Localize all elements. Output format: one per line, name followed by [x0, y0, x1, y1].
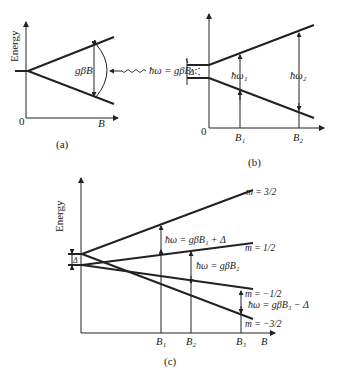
gap-label: gβB [75, 64, 93, 76]
panel-b: Δ ħω₁ ħω₂ 0 B₁ B₂ (b) [186, 14, 324, 169]
y-axis-label: Energy [8, 30, 20, 62]
lower-level [209, 78, 314, 118]
upper-level [28, 37, 114, 71]
zero-field-label: Δ [188, 67, 194, 77]
x-axis-label: B [98, 117, 105, 129]
energy-level-diagram: Energy 0 B gβB ħω = gβB (a) Δ ħω₁ ħω₂ 0 … [0, 0, 339, 380]
photon-wave-icon [122, 70, 146, 73]
tick-b1: B₁ [156, 336, 166, 347]
transition-2-label: ħω = gβB₂ [196, 260, 240, 271]
transition-arc [96, 44, 107, 97]
level-label-m-neg-1-2: m = −1/2 [245, 289, 282, 299]
origin-label: 0 [19, 115, 25, 127]
lower-level [28, 71, 114, 104]
photon-label: ħω = gβB [149, 65, 191, 76]
panel-c: Energy Δ ħω = gβB₁ + Δ ħω = gβB₂ ħω = gβ… [53, 178, 309, 368]
origin-label: 0 [201, 125, 207, 137]
tick-b1: B₁ [235, 132, 245, 143]
caption-c: (c) [164, 355, 177, 368]
zero-field-label: Δ [72, 256, 78, 265]
transition-1-label: ħω = gβB₁ + Δ [165, 234, 226, 245]
transition-1-label: ħω₁ [231, 70, 247, 81]
caption-a: (a) [56, 138, 69, 151]
tick-b2: B₂ [293, 132, 303, 143]
caption-b: (b) [248, 156, 261, 169]
level-label-m-neg-3-2: m = −3/2 [245, 319, 282, 329]
transition-2-label: ħω₂ [290, 70, 307, 81]
tick-b3: B₃ [236, 336, 246, 347]
y-axis-label: Energy [53, 200, 65, 232]
level-label-m-3-2: m = 3/2 [246, 187, 276, 197]
transition-3-label: ħω = gβB₃ − Δ [248, 299, 309, 310]
x-axis-label: B [261, 336, 268, 347]
level-label-m-1-2: m = 1/2 [245, 243, 275, 253]
tick-b2: B₂ [186, 336, 196, 347]
panel-a: Energy 0 B gβB ħω = gβB (a) [8, 22, 191, 151]
upper-level [209, 25, 314, 65]
